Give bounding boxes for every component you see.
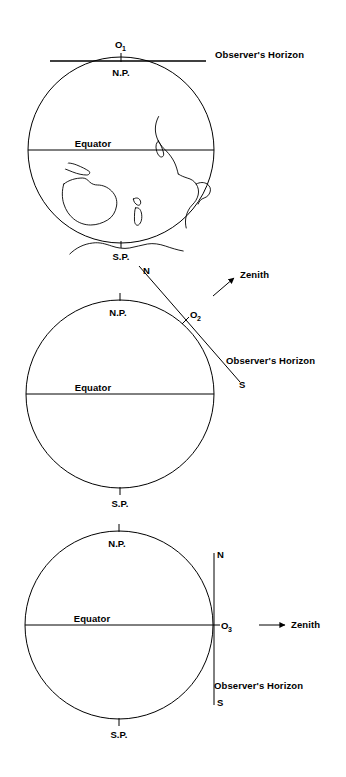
south-pole-label-2: S.P. (111, 498, 128, 509)
observer-label-2: O 2 (190, 309, 201, 322)
observer-subscript-1: 1 (122, 45, 126, 52)
diagram-1: Equator O 1 Observer's Horizon N.P. S.P. (28, 39, 304, 262)
observer-label-3: O 3 (221, 620, 232, 633)
compass-north-label-2: N (143, 265, 150, 276)
compass-south-label-3: S (217, 697, 223, 708)
south-pole-label-1: S.P. (112, 251, 129, 262)
zenith-label-3: Zenith (291, 619, 320, 630)
world-coastlines-2 (42, 307, 210, 497)
diagram-3: Equator N S O 3 Observer's Horizon Zenit… (25, 524, 320, 740)
world-coastlines-1 (44, 65, 211, 254)
compass-north-label-3: N (217, 549, 224, 560)
north-pole-label-3: N.P. (108, 538, 126, 549)
north-pole-label-1: N.P. (112, 67, 130, 78)
south-pole-label-3: S.P. (110, 729, 127, 740)
equator-label-1: Equator (75, 138, 112, 149)
zenith-arrow-2 (213, 278, 234, 296)
observer-label-1: O 1 (115, 39, 126, 52)
observer-horizon-label-1: Observer's Horizon (215, 49, 304, 60)
world-coastlines-3 (41, 538, 209, 728)
observer-horizon-label-3: Observer's Horizon (214, 680, 303, 691)
observer-horizon-label-2: Observer's Horizon (226, 355, 315, 366)
earth-horizon-zenith-figure: Equator O 1 Observer's Horizon N.P. S.P.… (0, 0, 346, 777)
observer-subscript-2: 2 (197, 315, 201, 322)
diagram-2: Equator N S O 2 Observer's Horizon Zenit… (26, 265, 315, 509)
north-pole-label-2: N.P. (109, 307, 127, 318)
zenith-label-2: Zenith (240, 269, 269, 280)
equator-label-3: Equator (74, 613, 111, 624)
equator-label-2: Equator (75, 382, 112, 393)
observer-subscript-3: 3 (228, 626, 232, 633)
observer-horizon-line-2 (139, 266, 240, 382)
compass-south-label-2: S (239, 379, 245, 390)
